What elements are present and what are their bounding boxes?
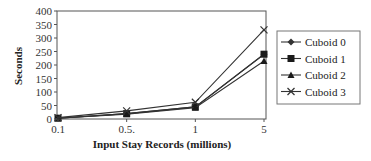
line-chart: 050100150200250300350400 0.10.5.15 Secon… xyxy=(0,0,371,161)
x-tick-label: 0.5. xyxy=(118,123,135,135)
plot-border xyxy=(57,11,266,119)
y-tick-label: 350 xyxy=(36,19,53,31)
y-tick-label: 200 xyxy=(36,59,53,71)
y-tick-label: 150 xyxy=(36,73,53,85)
x-axis: 0.10.5.15 xyxy=(51,119,267,135)
x-tick-label: 5 xyxy=(261,123,267,135)
square-marker-icon xyxy=(261,51,268,58)
y-tick-label: 300 xyxy=(36,32,53,44)
y-axis: 050100150200250300350400 xyxy=(36,5,58,125)
legend-label: Cuboid 1 xyxy=(305,53,346,65)
y-tick-label: 50 xyxy=(41,100,53,112)
y-tick-label: 100 xyxy=(36,86,53,98)
plot-area xyxy=(55,11,268,122)
x-tick-label: 0.1 xyxy=(51,123,65,135)
series-cuboid-2 xyxy=(55,57,268,121)
x-tick-label: 1 xyxy=(193,123,199,135)
x-axis-title: Input Stay Records (millions) xyxy=(93,138,232,151)
y-axis-title: Seconds xyxy=(12,46,24,85)
legend-label: Cuboid 3 xyxy=(305,86,346,98)
y-tick-label: 400 xyxy=(36,5,53,17)
series-cuboid-3 xyxy=(55,26,268,121)
y-tick-label: 250 xyxy=(36,46,53,58)
square-marker-icon xyxy=(288,55,295,62)
legend-label: Cuboid 2 xyxy=(305,69,346,81)
legend: Cuboid 0Cuboid 1Cuboid 2Cuboid 3 xyxy=(277,31,360,104)
legend-label: Cuboid 0 xyxy=(305,36,346,48)
